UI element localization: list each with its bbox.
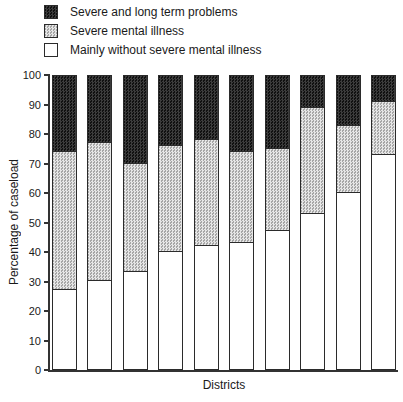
legend-swatch-dark-hatch-icon (44, 5, 58, 19)
plot-area: Percentage of caseload 01020304050607080… (48, 75, 398, 372)
stacked-bar-chart-figure: Severe and long term problems Severe men… (0, 0, 403, 402)
segment-dark-hatch-district-2 (88, 76, 111, 143)
segment-dark-hatch-district-3 (124, 76, 147, 164)
legend-item-severe-long-term: Severe and long term problems (44, 5, 261, 19)
segment-white-district-1 (53, 290, 76, 369)
y-tick-label-20: 20 (11, 304, 41, 318)
segment-light-stipple-district-2 (88, 143, 111, 281)
bars-layer (50, 75, 398, 370)
segment-light-stipple-district-6 (230, 152, 253, 243)
segment-dark-hatch-district-1 (53, 76, 76, 152)
segment-white-district-6 (230, 243, 253, 369)
legend-swatch-white-icon (44, 43, 58, 57)
y-tick-label-40: 40 (11, 245, 41, 259)
segment-white-district-9 (337, 193, 360, 369)
y-tick-label-10: 10 (11, 334, 41, 348)
bar-district-5 (194, 75, 219, 370)
segment-light-stipple-district-7 (266, 149, 289, 231)
bar-district-7 (265, 75, 290, 370)
bar-district-3 (123, 75, 148, 370)
y-tick-label-50: 50 (11, 216, 41, 230)
y-tick-label-0: 0 (11, 363, 41, 377)
segment-white-district-5 (195, 246, 218, 369)
segment-dark-hatch-district-8 (301, 76, 324, 108)
legend-item-mainly-without: Mainly without severe mental illness (44, 43, 261, 57)
y-tick-label-30: 30 (11, 275, 41, 289)
segment-white-district-8 (301, 214, 324, 369)
y-tick-label-80: 80 (11, 127, 41, 141)
segment-white-district-7 (266, 231, 289, 369)
y-tick-label-90: 90 (11, 98, 41, 112)
bar-district-1 (52, 75, 77, 370)
bar-district-4 (158, 75, 183, 370)
segment-white-district-3 (124, 272, 147, 369)
segment-dark-hatch-district-5 (195, 76, 218, 140)
segment-light-stipple-district-1 (53, 152, 76, 290)
segment-dark-hatch-district-6 (230, 76, 253, 152)
bar-district-9 (336, 75, 361, 370)
segment-light-stipple-district-9 (337, 126, 360, 193)
segment-light-stipple-district-3 (124, 164, 147, 272)
segment-light-stipple-district-8 (301, 108, 324, 213)
segment-white-district-2 (88, 281, 111, 369)
segment-dark-hatch-district-4 (159, 76, 182, 146)
segment-dark-hatch-district-10 (372, 76, 395, 102)
segment-light-stipple-district-4 (159, 146, 182, 251)
bar-district-10 (371, 75, 396, 370)
segment-white-district-4 (159, 252, 182, 369)
segment-white-district-10 (372, 155, 395, 369)
legend-label: Severe mental illness (70, 24, 184, 38)
y-tick-label-100: 100 (11, 68, 41, 82)
bar-district-6 (229, 75, 254, 370)
segment-light-stipple-district-10 (372, 102, 395, 155)
bar-district-8 (300, 75, 325, 370)
bar-district-2 (87, 75, 112, 370)
y-tick-label-70: 70 (11, 157, 41, 171)
y-tick-label-60: 60 (11, 186, 41, 200)
segment-dark-hatch-district-9 (337, 76, 360, 126)
legend-label: Mainly without severe mental illness (70, 43, 261, 57)
legend-item-severe-mental-illness: Severe mental illness (44, 24, 261, 38)
chart-legend: Severe and long term problems Severe men… (44, 5, 261, 62)
segment-dark-hatch-district-7 (266, 76, 289, 149)
legend-swatch-stipple-icon (44, 24, 58, 38)
segment-light-stipple-district-5 (195, 140, 218, 245)
legend-label: Severe and long term problems (70, 5, 237, 19)
x-axis-title: Districts (50, 378, 398, 392)
